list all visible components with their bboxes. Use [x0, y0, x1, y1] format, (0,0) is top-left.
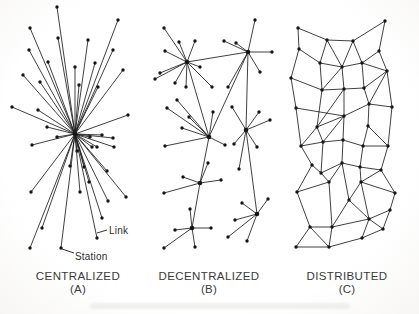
caption-distributed: DISTRIBUTED (C)	[277, 270, 417, 295]
link-callout-label: Link	[109, 225, 128, 236]
caption-distributed-title: DISTRIBUTED	[306, 270, 387, 282]
caption-decentralized-title: DECENTRALIZED	[158, 270, 259, 282]
caption-centralized: CENTRALIZED (A)	[8, 270, 148, 295]
caption-centralized-title: CENTRALIZED	[36, 270, 120, 282]
caption-centralized-letter: (A)	[8, 283, 148, 296]
network-figure	[0, 0, 419, 314]
caption-decentralized-letter: (B)	[139, 283, 279, 296]
caption-decentralized: DECENTRALIZED (B)	[139, 270, 279, 295]
caption-distributed-letter: (C)	[277, 283, 417, 296]
station-callout-label: Station	[75, 251, 108, 262]
